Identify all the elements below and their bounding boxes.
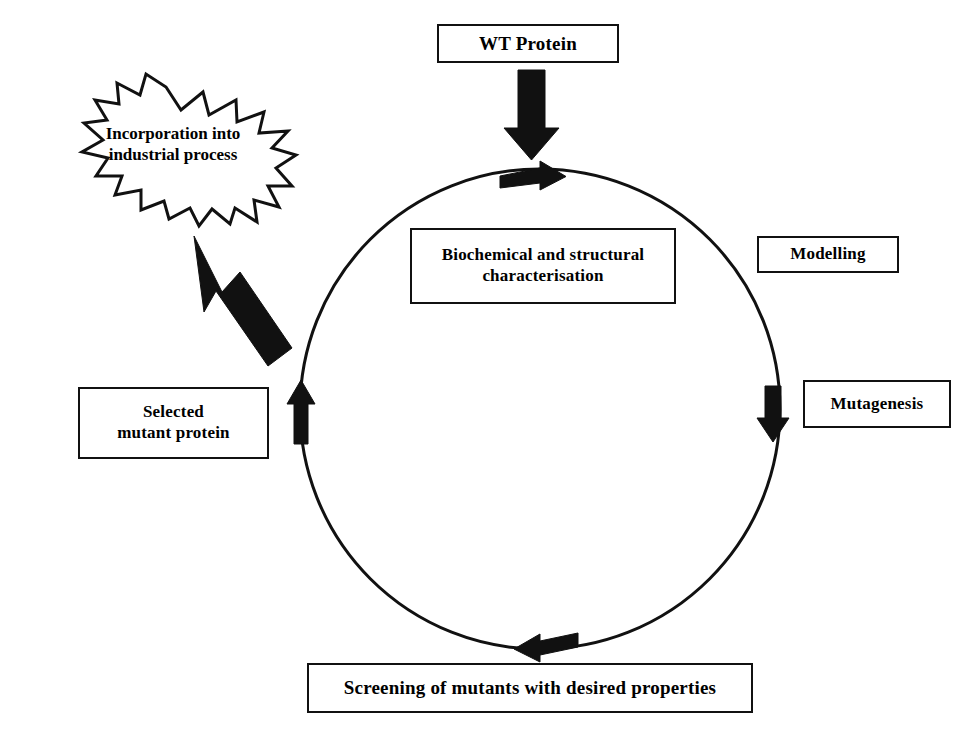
node-mutagenesis[interactable]: Mutagenesis [803, 380, 951, 428]
node-wt-protein-label: WT Protein [475, 32, 581, 55]
diagram-vector-layer [0, 0, 972, 754]
node-incorporation-label: Incorporation into industrial process [88, 123, 258, 166]
cycle-arrow-left [287, 380, 315, 444]
node-selected-mutant-protein[interactable]: Selected mutant protein [78, 387, 269, 459]
node-modelling-label: Modelling [786, 244, 869, 265]
node-mutagenesis-label: Mutagenesis [827, 394, 928, 415]
node-biochemical-characterisation-label: Biochemical and structural characterisat… [438, 245, 649, 286]
cycle-arrow-top [500, 161, 566, 190]
node-screening-of-mutants[interactable]: Screening of mutants with desired proper… [307, 663, 753, 713]
entry-arrow [504, 70, 559, 160]
diagram-canvas: WT Protein Biochemical and structural ch… [0, 0, 972, 754]
node-screening-of-mutants-label: Screening of mutants with desired proper… [340, 676, 720, 699]
node-modelling[interactable]: Modelling [757, 236, 899, 273]
exit-arrow [194, 236, 292, 366]
node-selected-mutant-protein-label: Selected mutant protein [113, 402, 234, 443]
node-wt-protein[interactable]: WT Protein [437, 24, 619, 63]
node-biochemical-characterisation[interactable]: Biochemical and structural characterisat… [410, 228, 676, 304]
cycle-arrow-bottom [514, 633, 578, 662]
cycle-arrow-right [757, 386, 789, 442]
